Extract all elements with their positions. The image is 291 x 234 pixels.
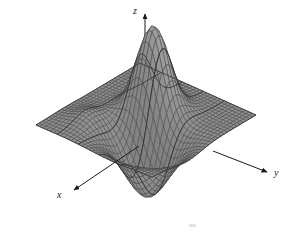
y-axis-label: y — [274, 168, 278, 178]
z-axis-label: z — [133, 6, 137, 16]
y-axis — [213, 151, 267, 172]
scan-artifact — [189, 224, 196, 227]
surface-plot-figure: x y z — [0, 0, 291, 234]
surface-mesh — [36, 26, 256, 197]
x-axis-label: x — [57, 190, 61, 200]
surface-mesh-svg — [0, 0, 291, 234]
